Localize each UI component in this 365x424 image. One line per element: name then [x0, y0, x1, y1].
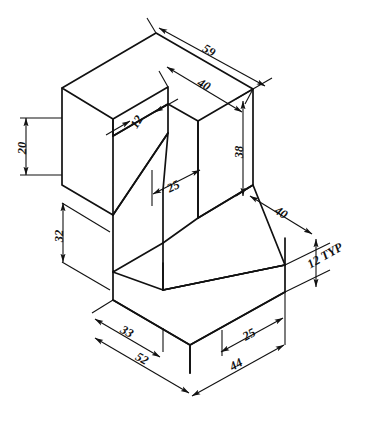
dimension-label-32: 32	[52, 230, 66, 244]
notch-top-surface	[113, 87, 168, 119]
dimension-40-top: 40	[159, 67, 253, 112]
dimension-32: 32	[52, 203, 110, 290]
dimension-label-59: 59	[200, 41, 218, 60]
base-plate-bottom-edge-left	[113, 292, 285, 345]
base-plate-right-front-face	[190, 265, 285, 345]
dimension-label-40-top: 40	[194, 75, 213, 94]
dimension-label-12-notch: 12	[127, 113, 145, 131]
dimension-label-12-typ: 12 TYP	[305, 240, 346, 272]
dimension-40-right: 40	[250, 196, 312, 234]
dimension-label-20: 20	[15, 141, 29, 155]
isometric-drawing-canvas: 59 40 12 20	[0, 0, 365, 424]
part-body	[62, 33, 285, 373]
dimension-label-38: 38	[232, 145, 246, 159]
dimension-12-typ: 12 TYP	[285, 239, 345, 292]
base-pocket-face	[163, 238, 285, 290]
top-face-rear-block	[62, 33, 253, 136]
dimension-44: 44	[192, 345, 284, 396]
dimension-25-lower: 25	[221, 292, 285, 356]
mid-platform-top-face	[163, 185, 285, 290]
angled-chamfer-edge-lower	[113, 133, 168, 215]
dimension-25-upper: 25	[152, 170, 200, 206]
dimension-20: 20	[15, 118, 62, 175]
dimension-label-25-lower: 25	[239, 325, 258, 344]
dimension-38: 38	[232, 89, 253, 196]
isometric-part-drawing: 59 40 12 20	[0, 0, 365, 424]
dimension-59: 59	[147, 18, 272, 89]
base-plate-top-face	[113, 265, 285, 290]
left-face-rear-block	[62, 88, 113, 215]
dimension-label-44: 44	[226, 355, 245, 374]
dimension-label-52: 52	[133, 349, 151, 367]
dimension-label-33: 33	[117, 322, 136, 341]
